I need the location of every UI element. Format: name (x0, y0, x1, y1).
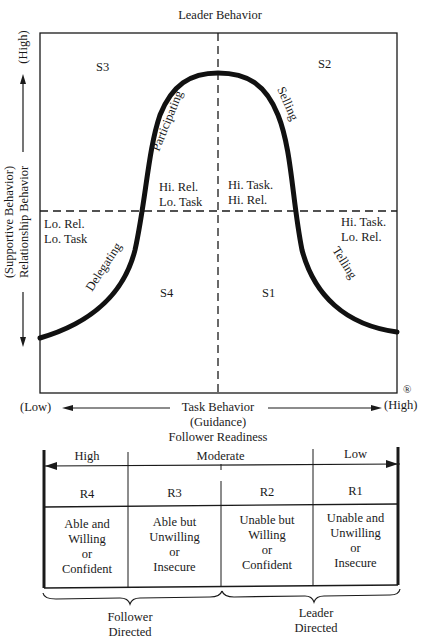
region-hi-task-hi-rel: Hi. Task. Hi. Rel. (228, 178, 273, 208)
desc-line: or (313, 541, 398, 556)
registered-mark: ® (403, 382, 411, 397)
x-axis-label-task: Task Behavior (160, 400, 276, 415)
quadrant-s3: S3 (96, 60, 109, 75)
group-line: Directed (90, 625, 170, 640)
region-line: Hi. Task. (228, 178, 273, 193)
group-leader-directed: Leader Directed (276, 606, 356, 636)
desc-line: Insecure (128, 560, 221, 575)
desc-line: Confident (221, 558, 313, 573)
region-line: Hi. Rel. (228, 193, 273, 208)
readiness-desc-r3: Able but Unwilling or Insecure (128, 515, 221, 575)
desc-line: Unwilling (128, 530, 221, 545)
level-low: Low (313, 447, 398, 462)
desc-line: Unable but (221, 513, 313, 528)
region-lo-rel-lo-task: Lo. Rel. Lo. Task (44, 217, 87, 247)
arrow-right-icon (371, 405, 382, 411)
region-line: Lo. Task (159, 195, 202, 210)
group-line: Follower (90, 610, 170, 625)
desc-line: Insecure (313, 556, 398, 571)
quadrant-s1: S1 (262, 286, 275, 301)
desc-line: or (128, 545, 221, 560)
region-line: Hi. Task. (341, 215, 386, 230)
readiness-code-r2: R2 (221, 485, 313, 500)
readiness-desc-r4: Able and Willing or Confident (46, 517, 128, 577)
desc-line: Able and (46, 517, 128, 532)
desc-line: or (46, 547, 128, 562)
region-line: Lo. Rel. (341, 230, 386, 245)
readiness-desc-r1: Unable and Unwilling or Insecure (313, 511, 398, 571)
group-line: Directed (276, 621, 356, 636)
arrow-down-icon (20, 337, 26, 347)
readiness-code-r4: R4 (46, 487, 128, 502)
desc-line: Unable and (313, 511, 398, 526)
desc-line: Able but (128, 515, 221, 530)
diagram-title: Leader Behavior (150, 8, 290, 23)
arrow-left-icon (62, 405, 73, 411)
group-follower-directed: Follower Directed (90, 610, 170, 640)
x-axis-low-label: (Low) (20, 400, 51, 415)
region-hi-rel-lo-task: Hi. Rel. Lo. Task (159, 180, 202, 210)
desc-line: or (221, 543, 313, 558)
region-hi-task-lo-rel: Hi. Task. Lo. Rel. (341, 215, 386, 245)
follower-directed-brace (43, 591, 222, 604)
desc-line: Unwilling (313, 526, 398, 541)
quadrant-s4: S4 (160, 286, 173, 301)
y-axis-high-label: (High) (16, 30, 30, 63)
region-line: Lo. Rel. (44, 217, 87, 232)
readiness-desc-r2: Unable but Willing or Confident (221, 513, 313, 573)
x-axis-label-guidance: (Guidance) (160, 415, 276, 430)
group-line: Leader (276, 606, 356, 621)
leader-directed-brace (222, 589, 400, 602)
region-line: Lo. Task (44, 232, 87, 247)
level-high: High (46, 449, 128, 464)
y-axis-label-relationship: Relationship Behavior (17, 165, 31, 278)
level-moderate: Moderate (128, 449, 313, 464)
desc-line: Willing (221, 528, 313, 543)
desc-line: Willing (46, 532, 128, 547)
x-axis-label-readiness: Follower Readiness (150, 430, 286, 445)
x-axis-high-label: (High) (384, 398, 417, 413)
readiness-code-r1: R1 (313, 484, 398, 499)
desc-line: Confident (46, 562, 128, 577)
style-label-telling: Telling (329, 244, 360, 282)
y-axis-label-supportive: (Supportive Behavior) (2, 166, 16, 278)
readiness-code-r3: R3 (128, 486, 221, 501)
region-line: Hi. Rel. (159, 180, 202, 195)
arrow-up-icon (20, 74, 26, 84)
quadrant-s2: S2 (318, 57, 331, 72)
